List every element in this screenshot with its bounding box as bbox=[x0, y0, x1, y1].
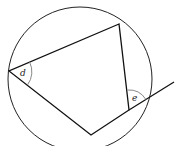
angle-d-label: d bbox=[20, 68, 26, 78]
angle-d-arc bbox=[28, 62, 32, 85]
quadrilateral bbox=[9, 24, 129, 135]
angle-e-label: e bbox=[132, 93, 137, 103]
circumcircle bbox=[8, 7, 152, 146]
cyclic-quadrilateral-diagram: d e bbox=[0, 0, 185, 146]
